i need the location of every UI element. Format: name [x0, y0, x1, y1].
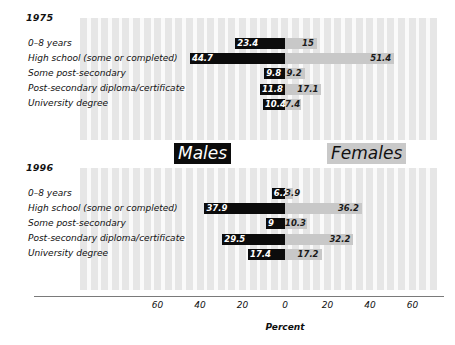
- value-label-female-1975-1: 51.4: [285, 53, 391, 64]
- value-label-female-1996-0: 3.9: [285, 188, 295, 199]
- value-label-male-1975-0: 23.4: [237, 38, 258, 49]
- value-label-male-1996-3: 29.5: [224, 234, 245, 245]
- x-axis-title: Percent: [225, 322, 345, 332]
- category-label-1996-1: High school (some or completed): [28, 203, 177, 214]
- value-label-male-1975-2: 9.8: [266, 68, 281, 79]
- value-label-male-1975-3: 11.8: [262, 84, 283, 95]
- series-label-females: Females: [327, 143, 406, 164]
- category-label-1975-4: University degree: [28, 98, 108, 109]
- value-label-female-1996-3: 32.2: [285, 234, 350, 245]
- x-axis-tick-5: 40: [355, 300, 385, 310]
- category-label-1996-2: Some post-secondary: [28, 218, 126, 229]
- value-label-female-1975-4: 7.4: [285, 99, 298, 110]
- value-label-female-1975-2: 9.2: [285, 68, 302, 79]
- series-label-males: Males: [174, 143, 231, 164]
- plot-background-1996: [80, 168, 437, 290]
- x-axis-tick-3: 0: [270, 300, 300, 310]
- category-label-1975-0: 0–8 years: [28, 38, 72, 49]
- category-label-1996-4: University degree: [28, 248, 108, 259]
- value-label-female-1975-3: 17.1: [285, 84, 318, 95]
- category-label-1975-3: Post-secondary diploma/certificate: [28, 83, 185, 94]
- x-axis-tick-4: 20: [313, 300, 343, 310]
- category-label-1975-1: High school (some or completed): [28, 53, 177, 64]
- plot-background-1975: [80, 18, 437, 140]
- x-axis-tick-1: 40: [185, 300, 215, 310]
- value-label-male-1975-1: 44.7: [192, 53, 213, 64]
- panel-year-label-1975: 1975: [26, 12, 53, 23]
- value-label-male-1975-4: 10.4: [265, 99, 286, 110]
- value-label-male-1996-4: 17.4: [250, 249, 271, 260]
- x-axis-line: [34, 296, 444, 297]
- value-label-male-1996-2: 9: [268, 218, 274, 229]
- population-pyramid-chart: 197519960–8 years23.415High school (some…: [0, 0, 455, 345]
- value-label-female-1996-4: 17.2: [285, 249, 319, 260]
- category-label-1996-0: 0–8 years: [28, 188, 72, 199]
- category-label-1975-2: Some post-secondary: [28, 68, 126, 79]
- value-label-female-1975-0: 15: [285, 38, 314, 49]
- x-axis-tick-2: 20: [228, 300, 258, 310]
- category-label-1996-3: Post-secondary diploma/certificate: [28, 233, 185, 244]
- x-axis-tick-0: 60: [143, 300, 173, 310]
- x-axis-tick-6: 60: [398, 300, 428, 310]
- panel-year-label-1996: 1996: [26, 162, 53, 173]
- value-label-female-1996-2: 10.3: [285, 218, 304, 229]
- value-label-female-1996-1: 36.2: [285, 203, 359, 214]
- value-label-male-1996-1: 37.9: [206, 203, 227, 214]
